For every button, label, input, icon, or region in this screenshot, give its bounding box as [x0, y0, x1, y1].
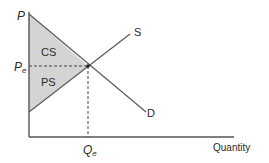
supply-demand-diagram: P Pe CS PS S D Qe Quantity — [0, 0, 269, 163]
demand-curve-label: D — [147, 108, 155, 119]
producer-surplus-label: PS — [41, 77, 56, 88]
equilibrium-quantity-subscript: e — [92, 149, 96, 158]
equilibrium-price-subscript: e — [22, 66, 26, 75]
equilibrium-point — [86, 64, 90, 68]
y-axis-label: P — [17, 10, 25, 22]
equilibrium-quantity-main: Q — [83, 143, 92, 157]
x-axis-label: Quantity — [213, 143, 250, 153]
supply-curve-label: S — [134, 27, 141, 38]
consumer-surplus-label: CS — [41, 47, 56, 58]
equilibrium-quantity-label: Qe — [83, 144, 97, 158]
equilibrium-price-label: Pe — [14, 61, 26, 75]
equilibrium-price-main: P — [14, 60, 22, 74]
